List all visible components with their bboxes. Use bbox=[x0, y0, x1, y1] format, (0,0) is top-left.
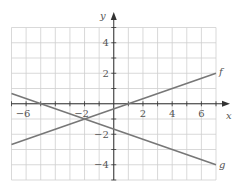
x-tick-label: 4 bbox=[169, 108, 175, 119]
x-axis-label: x bbox=[226, 110, 232, 121]
axes bbox=[12, 12, 231, 180]
x-tick-label: −2 bbox=[74, 108, 89, 119]
x-tick-label: 6 bbox=[198, 108, 204, 119]
y-axis-label: y bbox=[99, 10, 106, 21]
y-tick-label: 4 bbox=[102, 37, 108, 48]
y-tick-label: −4 bbox=[94, 159, 109, 170]
x-tick-label: 2 bbox=[140, 108, 146, 119]
coordinate-plane: −6−224642−2−4 x y f g bbox=[0, 0, 240, 191]
g-line-label: g bbox=[219, 159, 225, 170]
x-axis-arrow-icon bbox=[222, 101, 230, 107]
y-axis-arrow-icon bbox=[111, 12, 117, 20]
y-tick-label: 2 bbox=[102, 68, 108, 79]
y-tick-label: −2 bbox=[94, 129, 109, 140]
x-tick-label: −6 bbox=[16, 108, 31, 119]
f-line-label: f bbox=[218, 66, 225, 77]
